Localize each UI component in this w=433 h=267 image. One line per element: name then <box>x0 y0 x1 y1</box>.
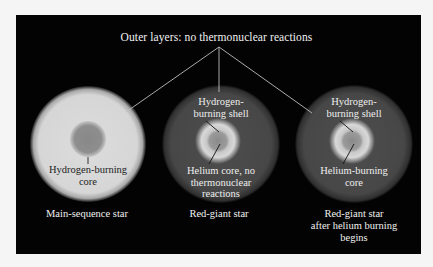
caption-line: Red-giant star <box>311 208 397 220</box>
caption-line: begins <box>311 232 397 244</box>
hydrogen-burning-core <box>70 121 106 157</box>
label-line: reactions <box>187 188 255 200</box>
red-giant-helium-core-label: Helium-burning core <box>320 165 388 188</box>
hydrogen-burning-shell <box>195 118 241 164</box>
label-line: Hydrogen- <box>326 96 381 108</box>
label-line: Hydrogen- <box>193 96 248 108</box>
main-sequence-core-label: Hydrogen-burning core <box>49 164 127 187</box>
diagram-canvas: Outer layers: no thermonuclear reactions… <box>0 0 433 267</box>
label-line: core <box>49 176 127 188</box>
label-line: Hydrogen-burning <box>49 164 127 176</box>
label-line: burning shell <box>326 108 381 120</box>
outer-layers-title: Outer layers: no thermonuclear reactions <box>0 31 433 43</box>
red-giant-caption: Red-giant star <box>189 208 248 220</box>
label-line: core <box>320 177 388 189</box>
label-line: burning shell <box>193 108 248 120</box>
caption-line: Main-sequence star <box>46 208 128 220</box>
label-line: Helium-burning <box>320 165 388 177</box>
red-giant-helium-caption: Red-giant star after helium burning begi… <box>311 208 397 244</box>
main-sequence-caption: Main-sequence star <box>46 208 128 220</box>
label-line: Helium core, no <box>187 165 255 177</box>
caption-line: after helium burning <box>311 220 397 232</box>
hydrogen-burning-shell <box>329 118 375 164</box>
caption-line: Red-giant star <box>189 208 248 220</box>
label-line: thermonuclear <box>187 177 255 189</box>
red-giant-core-label: Helium core, no thermonuclear reactions <box>187 165 255 200</box>
red-giant-shell-label: Hydrogen- burning shell <box>193 96 248 119</box>
red-giant-helium-shell-label: Hydrogen- burning shell <box>326 96 381 119</box>
